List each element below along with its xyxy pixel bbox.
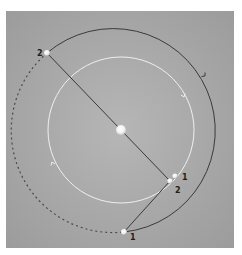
sphere-outer-2 <box>44 50 50 56</box>
label-inner-2: 2 <box>175 186 181 195</box>
label-inner-1: 1 <box>182 173 188 182</box>
sphere-inner-1 <box>172 173 177 178</box>
label-outer-2: 2 <box>37 49 43 58</box>
label-outer-1: 1 <box>130 233 136 242</box>
sphere-inner-2 <box>167 178 172 183</box>
orbit-diagram: 2 1 1 2 <box>0 0 242 255</box>
sphere-outer-1 <box>121 229 127 235</box>
central-body <box>116 125 126 135</box>
